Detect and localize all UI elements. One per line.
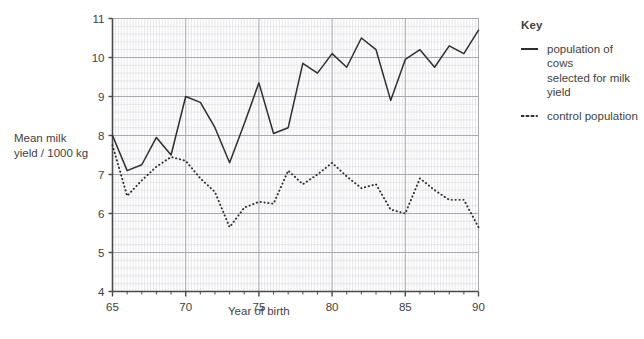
y-tick-label: 10 <box>92 52 105 64</box>
y-tick-label: 6 <box>98 208 104 220</box>
y-axis-label-line1: Mean milk <box>14 131 110 146</box>
y-tick-label: 5 <box>98 247 104 259</box>
chart-legend: Key population of cows selected for milk… <box>521 18 639 132</box>
x-axis-label: Year of birth <box>228 305 290 317</box>
legend-label-selected-population: population of cows selected for milk yie… <box>547 42 639 100</box>
y-axis-label-line2: yield / 1000 kg <box>14 146 110 161</box>
gridlines-major <box>113 19 479 292</box>
legend-label-line1: population of cows <box>547 43 613 70</box>
legend-label-line2: selected for milk yield <box>547 72 630 99</box>
y-tick-label: 7 <box>98 169 104 181</box>
series-line-1 <box>113 30 479 170</box>
x-tick-label: 70 <box>179 301 192 313</box>
dotted-line-swatch-icon <box>521 109 541 123</box>
legend-label-control-population: control population <box>547 109 639 124</box>
x-tick-label: 85 <box>399 301 412 313</box>
series-line-2 <box>113 145 479 227</box>
y-tick-label: 11 <box>93 13 105 25</box>
legend-item-selected-population: population of cows selected for milk yie… <box>521 42 639 100</box>
chart-figure: 4567891011657075808590 Mean milk yield /… <box>0 0 644 339</box>
x-tick-label: 90 <box>472 301 485 313</box>
y-axis-label: Mean milk yield / 1000 kg <box>14 131 110 161</box>
gridlines-minor <box>113 19 479 292</box>
x-tick-label: 80 <box>326 301 339 313</box>
y-tick-label: 9 <box>98 91 104 103</box>
legend-title: Key <box>521 18 639 33</box>
solid-line-swatch-icon <box>521 42 541 56</box>
x-tick-label: 65 <box>106 301 119 313</box>
y-tick-label: 4 <box>98 286 105 298</box>
legend-item-control-population: control population <box>521 109 639 124</box>
